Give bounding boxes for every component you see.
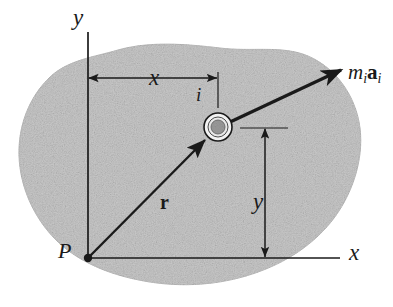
force-vector-mass-symbol: m [348,60,363,84]
particle-marker-group [204,113,232,141]
y-axis-label: y [73,6,83,29]
origin-point-dot [84,254,92,262]
x-axis-label: x [349,241,359,264]
physics-diagram-figure: y x P x y i r miai [0,0,393,307]
dimension-y-label: y [253,190,263,213]
particle-label: i [196,85,201,104]
dimension-x-label: x [149,66,159,89]
force-vector-acceleration-subscript: i [378,71,382,86]
origin-point-label: P [58,240,71,262]
force-vector-acceleration-symbol: a [367,60,378,84]
force-vector-label: miai [348,62,381,86]
particle-inner-dot [211,120,225,134]
position-vector-label: r [160,192,169,212]
